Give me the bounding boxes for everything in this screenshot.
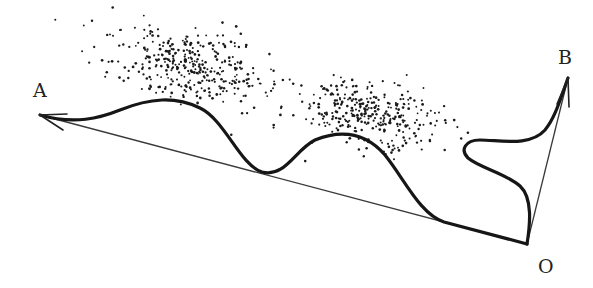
scatter-clusters: [54, 6, 469, 162]
label-a: A: [33, 81, 47, 100]
curve-o-to-b: [464, 78, 568, 244]
diagram-canvas: [0, 0, 593, 288]
label-o: O: [538, 257, 554, 276]
upper-left-cluster: [54, 6, 303, 136]
label-b: B: [558, 48, 572, 67]
line-ob: [527, 78, 568, 244]
curve-o-to-a: [40, 100, 527, 244]
